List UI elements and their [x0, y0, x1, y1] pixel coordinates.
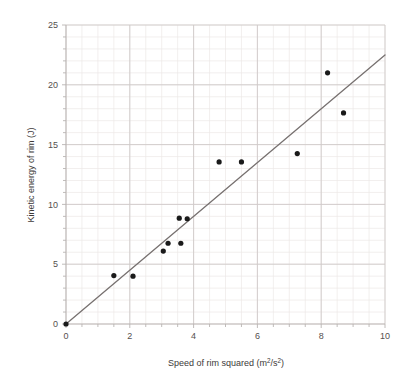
x-tick-label: 0: [63, 331, 68, 341]
svg-text:Speed of rim squared (m2/s2): Speed of rim squared (m2/s2): [168, 357, 284, 368]
y-tick-label: 20: [48, 80, 58, 90]
data-point: [217, 159, 222, 164]
data-point: [165, 241, 170, 246]
y-tick-label: 0: [53, 319, 58, 329]
data-point: [178, 241, 183, 246]
svg-text:Kinetic energy of rim (J): Kinetic energy of rim (J): [26, 127, 36, 222]
x-tick-label: 8: [319, 331, 324, 341]
data-point: [111, 273, 116, 278]
chart-background: [0, 0, 408, 383]
data-point: [239, 159, 244, 164]
data-point: [63, 321, 68, 326]
y-tick-label: 5: [53, 259, 58, 269]
data-point: [325, 70, 330, 75]
chart-canvas: 0246810 0510152025 Speed of rim squared …: [0, 0, 408, 383]
minor-gridlines: [66, 25, 385, 324]
y-tick-label: 25: [48, 20, 58, 30]
scatter-chart: 0246810 0510152025 Speed of rim squared …: [0, 0, 408, 383]
data-point: [161, 248, 166, 253]
y-tick-label: 15: [48, 140, 58, 150]
data-point: [177, 216, 182, 221]
x-tick-label: 6: [255, 331, 260, 341]
y-axis-title: Kinetic energy of rim (J): [26, 127, 36, 222]
data-point: [185, 216, 190, 221]
x-tick-label: 10: [380, 331, 390, 341]
data-point: [341, 110, 346, 115]
x-tick-label: 2: [127, 331, 132, 341]
x-axis-title: Speed of rim squared (m2/s2): [168, 357, 284, 368]
x-tick-label: 4: [191, 331, 196, 341]
data-point: [130, 274, 135, 279]
y-tick-label: 10: [48, 200, 58, 210]
data-point: [295, 151, 300, 156]
